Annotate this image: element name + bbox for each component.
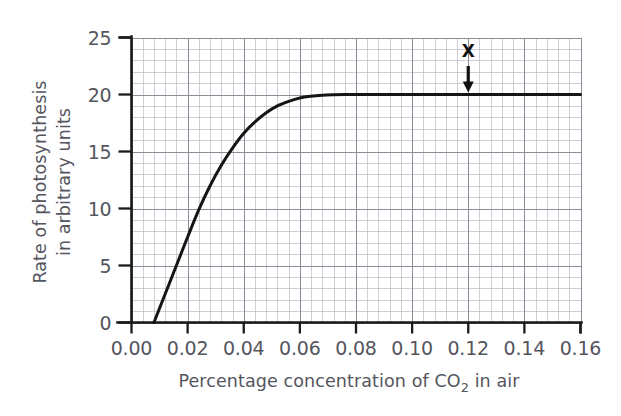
x-tick-labels: 0.000.020.040.060.080.100.120.140.16 (111, 337, 602, 359)
y-tick-label-15: 15 (88, 141, 112, 163)
x-tick-label-0.10: 0.10 (391, 337, 433, 359)
x-axis-title-main: Percentage concentration of CO (178, 371, 460, 391)
x-tick-label-0.06: 0.06 (279, 337, 321, 359)
x-tick-label-0.12: 0.12 (447, 337, 489, 359)
y-tick-label-20: 20 (88, 84, 112, 106)
x-axis-title-tail: in air (469, 371, 520, 391)
x-tick-label-0.16: 0.16 (560, 337, 602, 359)
y-axis-title-line-1: Rate of photosynthesis (30, 80, 50, 283)
x-tick-label-0.00: 0.00 (111, 337, 153, 359)
y-tick-label-10: 10 (88, 198, 112, 220)
y-axis-title: Rate of photosynthesisin arbitrary units (30, 80, 74, 283)
x-tick-label-0.02: 0.02 (167, 337, 209, 359)
x-axis-title: Percentage concentration of CO2 in air (178, 371, 520, 395)
x-axis-title-subscript: 2 (461, 380, 469, 395)
y-tick-labels: 0510152025 (88, 27, 112, 334)
annotation-label-x: X (462, 41, 475, 61)
x-tick-label-0.04: 0.04 (223, 337, 265, 359)
y-tick-label-0: 0 (100, 312, 112, 334)
x-tick-label-0.14: 0.14 (504, 337, 546, 359)
y-axis-title-line-2: in arbitrary units (54, 108, 74, 256)
x-tick-label-0.08: 0.08 (335, 337, 377, 359)
y-tick-label-5: 5 (100, 255, 112, 277)
chart-figure: 05101520250.000.020.040.060.080.100.120.… (0, 0, 621, 416)
y-tick-label-25: 25 (88, 27, 112, 49)
